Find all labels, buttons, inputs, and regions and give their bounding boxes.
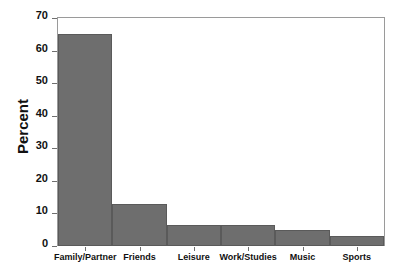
y-axis-tick-label: 70	[36, 10, 48, 21]
x-axis-tick-label: Sports	[343, 252, 372, 263]
y-axis-tick-mark	[52, 83, 57, 84]
y-axis-tick-label: 0	[42, 238, 48, 249]
y-axis-title: Percent	[14, 87, 31, 167]
y-axis-tick-label: 60	[36, 43, 48, 54]
y-axis-tick-label: 20	[36, 173, 48, 184]
y-axis-tick-label: 50	[36, 75, 48, 86]
bar	[167, 225, 221, 246]
bar	[275, 230, 329, 246]
y-axis-tick-mark	[52, 51, 57, 52]
y-axis-tick-label: 40	[36, 108, 48, 119]
x-axis-tick-mark	[303, 247, 304, 251]
x-axis-tick-label: Family/Partner	[54, 252, 117, 263]
y-axis-tick-label: 10	[36, 205, 48, 216]
x-axis-tick-label: Leisure	[178, 252, 210, 263]
y-axis-tick-mark	[52, 116, 57, 117]
x-axis-tick-mark	[194, 247, 195, 251]
y-axis-tick-mark	[52, 148, 57, 149]
y-axis-tick-mark	[52, 246, 57, 247]
x-axis-tick-mark	[140, 247, 141, 251]
bar	[58, 34, 112, 246]
bar	[330, 236, 384, 246]
y-axis-tick-mark	[52, 18, 57, 19]
x-axis-tick-label: Music	[290, 252, 316, 263]
x-axis-tick-label: Friends	[123, 252, 156, 263]
y-axis-tick-mark	[52, 213, 57, 214]
x-axis-tick-mark	[85, 247, 86, 251]
x-axis-tick-label: Work/Studies	[219, 252, 276, 263]
bar-chart: Percent 010203040506070 Family/PartnerFr…	[0, 0, 398, 274]
y-axis-tick-mark	[52, 181, 57, 182]
bar	[221, 225, 275, 246]
y-axis-tick-label: 30	[36, 140, 48, 151]
x-axis-tick-mark	[248, 247, 249, 251]
bar	[112, 204, 166, 246]
x-axis-tick-mark	[357, 247, 358, 251]
